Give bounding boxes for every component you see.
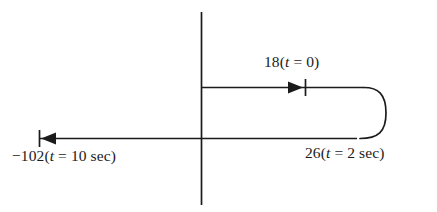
turn-time-variable: t (326, 144, 330, 161)
end-equals-sign: = (58, 147, 67, 164)
start-time-variable: t (285, 53, 289, 70)
end-paren-close: ) (111, 147, 116, 164)
end-point-label: −102(t = 10 sec) (12, 148, 116, 164)
turn-paren-close: ) (379, 144, 384, 161)
start-equals-sign: = (293, 53, 302, 70)
figure-canvas: 18(t = 0) −102(t = 10 sec) 26(t = 2 sec) (0, 0, 437, 212)
turn-equals-sign: = (334, 144, 343, 161)
start-time-value: 0 (306, 53, 314, 70)
u-turn-curve (360, 88, 386, 139)
end-time-value: 10 (71, 147, 87, 164)
leftward-arrowhead-icon (41, 133, 56, 145)
turn-time-unit: sec (359, 144, 379, 161)
turning-point-label: 26(t = 2 sec) (305, 145, 384, 161)
start-point-label: 18(t = 0) (264, 54, 319, 70)
end-time-variable: t (50, 147, 54, 164)
rightward-arrowhead-icon (288, 82, 303, 94)
end-point-value: −102 (12, 147, 44, 164)
start-paren-close: ) (314, 53, 319, 70)
trajectory-diagram (0, 0, 437, 212)
start-point-value: 18 (264, 53, 280, 70)
turn-time-value: 2 (347, 144, 355, 161)
end-time-unit: sec (91, 147, 111, 164)
turn-point-value: 26 (305, 144, 321, 161)
